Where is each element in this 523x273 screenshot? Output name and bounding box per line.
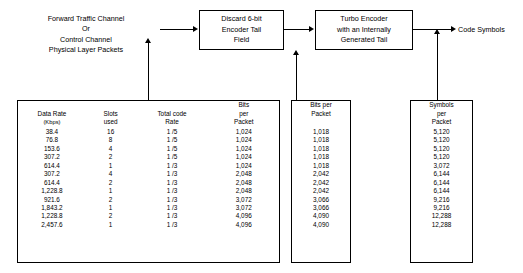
table-row: 1,228.821 /34,096 [18, 212, 279, 220]
left-table-cell: 1,024 [209, 153, 279, 161]
discard-tail-box: Discard 6-bit Encoder Tail Field [199, 10, 284, 50]
table-row: 1,018 [292, 145, 350, 153]
left-table-cell: 16 [86, 128, 136, 136]
left-table-cell: 76.8 [18, 136, 86, 144]
connector-right-table-up [437, 34, 438, 100]
source-label-line-2: Or [16, 24, 156, 34]
left-table-cell: 4 [86, 170, 136, 178]
table-row: 921.621 /33,072 [18, 196, 279, 204]
middle-table-cell: 1,018 [292, 162, 350, 170]
right-table-cell: 5,120 [411, 145, 472, 153]
right-table-grid: Symbols per Packet 5,1205,1205,1205,1203… [411, 101, 472, 229]
left-table-cell: 1 /3 [135, 179, 208, 187]
middle-table-cell: 3,066 [292, 204, 350, 212]
left-table-cell: 4 [86, 145, 136, 153]
arrow-discard-to-turbo [309, 26, 314, 32]
turbo-encoder-box: Turbo Encoder with an Internally Generat… [315, 10, 413, 50]
arrow-source-to-discard [193, 26, 198, 32]
left-table-cell: 614.4 [18, 162, 86, 170]
middle-table-cell: 2,042 [292, 170, 350, 178]
table-row: 3,066 [292, 204, 350, 212]
table-row: 2,457.611 /34,096 [18, 221, 279, 229]
left-table-cell: 1,024 [209, 136, 279, 144]
table-row: 2,042 [292, 187, 350, 195]
table-row: 307.241 /32,048 [18, 170, 279, 178]
table-row: 2,042 [292, 170, 350, 178]
right-table-cell: 12,288 [411, 212, 472, 220]
table-row: 4,090 [292, 221, 350, 229]
left-table-cell: 1 /3 [135, 221, 208, 229]
left-table-cell: 1 /3 [135, 170, 208, 178]
middle-table-header-row: Bits per Packet . [292, 101, 350, 128]
left-table-cell: 307.2 [18, 153, 86, 161]
connector-source-to-discard [160, 29, 193, 30]
left-table-cell: 1 /5 [135, 136, 208, 144]
left-table-cell: 2,048 [209, 179, 279, 187]
left-header-slots-line2: used [88, 118, 134, 127]
turbo-box-line-2: with an Internally [337, 25, 391, 35]
left-table-cell: 4,096 [209, 212, 279, 220]
left-table-cell: 1 [86, 204, 136, 212]
left-table-cell: 3,072 [209, 196, 279, 204]
middle-table-cell: 1,018 [292, 136, 350, 144]
left-table-grid: Data Rate (Kbps) Slots used Total code R… [18, 101, 279, 229]
left-table-cell: 1,228.8 [18, 187, 86, 195]
left-table-cell: 2 [86, 179, 136, 187]
right-header-line1: Symbols [413, 101, 470, 110]
right-table-header-symbols: Symbols per Packet [411, 101, 472, 128]
table-row: 1,228.811 /32,048 [18, 187, 279, 195]
source-label-line-4: Physical Layer Packets [16, 45, 156, 55]
left-header-bits-line2: per [211, 110, 277, 119]
left-table-cell: 1 /5 [135, 145, 208, 153]
middle-table-cell: 1,018 [292, 145, 350, 153]
right-table: Symbols per Packet 5,1205,1205,1205,1203… [410, 100, 473, 263]
table-row: 5,120 [411, 136, 472, 144]
output-label-text: Code Symbols [458, 25, 505, 34]
turbo-box-line-3: Generated Tail [337, 35, 391, 45]
middle-header-line1: Bits per [294, 101, 348, 110]
middle-table-cell: 4,090 [292, 221, 350, 229]
left-table-cell: 1 [86, 162, 136, 170]
table-row: 76.881 /51,024 [18, 136, 279, 144]
arrow-right-table-up [434, 29, 440, 34]
middle-table-cell: 3,066 [292, 196, 350, 204]
right-table-cell: 6,144 [411, 179, 472, 187]
left-table-cell: 8 [86, 136, 136, 144]
table-row: 5,120 [411, 153, 472, 161]
right-table-cell: 9,216 [411, 196, 472, 204]
table-row: 9,216 [411, 196, 472, 204]
output-label: Code Symbols [458, 25, 520, 35]
table-row: 3,072 [411, 162, 472, 170]
table-row: 9,216 [411, 204, 472, 212]
left-table-cell: 1,843.2 [18, 204, 86, 212]
left-table: Data Rate (Kbps) Slots used Total code R… [17, 100, 280, 263]
left-table-cell: 2 [86, 196, 136, 204]
left-table-cell: 1,024 [209, 162, 279, 170]
left-table-cell: 1 [86, 221, 136, 229]
connector-turbo-to-output [413, 29, 451, 30]
table-row: 2,042 [292, 179, 350, 187]
middle-table-cell: 2,042 [292, 179, 350, 187]
middle-header-line2: Packet [294, 110, 348, 119]
table-row: 4,090 [292, 212, 350, 220]
table-row: 1,018 [292, 153, 350, 161]
left-header-datarate-line2: (Kbps) [20, 119, 84, 127]
arrow-middle-table-up [293, 50, 299, 55]
table-row: 1,018 [292, 162, 350, 170]
left-table-cell: 1,024 [209, 145, 279, 153]
left-table-header-datarate: Data Rate (Kbps) [18, 101, 86, 128]
connector-left-table-up [148, 43, 149, 100]
table-row: 1,018 [292, 136, 350, 144]
left-table-cell: 1 /5 [135, 153, 208, 161]
right-header-line3: Packet [413, 118, 470, 127]
table-row: 12,288 [411, 221, 472, 229]
connector-discard-to-turbo [284, 29, 309, 30]
middle-table-cell: 1,018 [292, 128, 350, 136]
left-header-coderate-line1: Total code [137, 110, 206, 119]
right-table-header-row: Symbols per Packet [411, 101, 472, 128]
table-row: 5,120 [411, 145, 472, 153]
left-table-cell: 1 [86, 187, 136, 195]
left-table-cell: 1 /5 [135, 128, 208, 136]
right-table-cell: 6,144 [411, 187, 472, 195]
discard-box-line-2: Encoder Tail [221, 25, 261, 35]
